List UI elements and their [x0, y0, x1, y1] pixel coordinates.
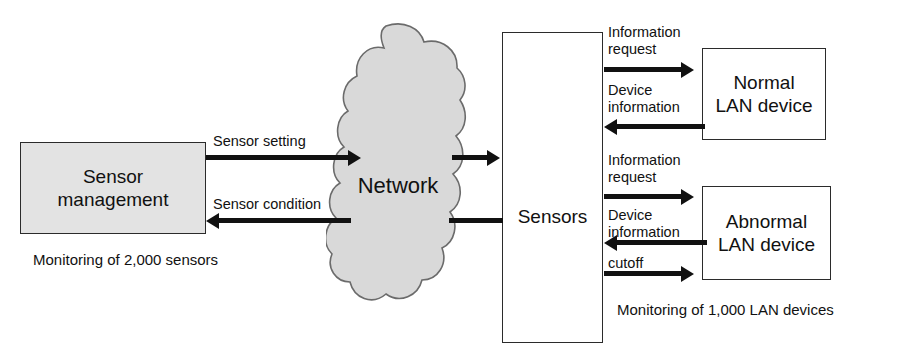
sensor-management-label: Sensor management [58, 165, 169, 211]
abnormal-information-request-line1: Information [608, 152, 681, 168]
sensor-management-label-line2: management [58, 189, 169, 210]
abnormal-lan-device-label: Abnormal LAN device [718, 210, 815, 256]
arrow-normal-device-information-head [604, 119, 617, 135]
arrow-normal-information-request [604, 67, 684, 72]
sensors-label: Sensors [503, 205, 602, 228]
sensors-box: Sensors [502, 32, 603, 343]
abnormal-information-request-line2: request [608, 169, 656, 185]
arrow-sensor-setting [206, 155, 351, 160]
sensor-management-box: Sensor management [20, 142, 206, 234]
cutoff-label: cutoff [608, 255, 643, 272]
abnormal-device-information-line2: information [608, 224, 680, 240]
normal-information-request-line2: request [608, 41, 656, 57]
normal-device-information-label: Device information [608, 82, 680, 116]
abnormal-lan-device-label-line1: Abnormal [726, 211, 807, 232]
arrow-network-to-sensors [452, 155, 488, 160]
sensor-setting-label: Sensor setting [213, 133, 306, 150]
normal-device-information-line2: information [608, 99, 680, 115]
arrow-normal-device-information [617, 124, 705, 129]
abnormal-information-request-label: Information request [608, 152, 681, 186]
arrow-sensor-condition [219, 218, 351, 223]
arrow-cutoff [604, 271, 684, 276]
arrow-abnormal-information-request-head [681, 189, 694, 205]
arrow-abnormal-device-information [617, 240, 707, 245]
arrow-sensor-condition-head [206, 213, 219, 229]
normal-information-request-line1: Information [608, 24, 681, 40]
abnormal-lan-device-label-line2: LAN device [718, 234, 815, 255]
normal-device-information-line1: Device [608, 82, 652, 98]
arrow-sensor-setting-head [348, 150, 361, 166]
normal-lan-device-label: Normal LAN device [715, 71, 812, 117]
arrow-abnormal-information-request [604, 194, 684, 199]
normal-lan-device-label-line1: Normal [733, 72, 794, 93]
figure-caption-remnant [255, 353, 645, 361]
sensor-condition-label: Sensor condition [213, 196, 321, 213]
sensor-management-label-line1: Sensor [83, 166, 143, 187]
normal-lan-device-box: Normal LAN device [702, 48, 826, 140]
arrow-abnormal-device-information-head [604, 235, 617, 251]
normal-information-request-label: Information request [608, 24, 681, 58]
abnormal-lan-device-box: Abnormal LAN device [702, 186, 831, 280]
arrow-cutoff-head [681, 266, 694, 282]
lan-monitoring-caption: Monitoring of 1,000 LAN devices [617, 301, 834, 318]
arrow-sensors-to-network [449, 218, 503, 223]
arrow-network-to-sensors-head [487, 150, 500, 166]
abnormal-device-information-line1: Device [608, 207, 652, 223]
arrow-normal-information-request-head [681, 62, 694, 78]
diagram-canvas: Network Sensor management Sensors Normal… [0, 0, 898, 363]
abnormal-device-information-label: Device information [608, 207, 680, 241]
network-label: Network [333, 173, 463, 199]
sensors-monitoring-caption: Monitoring of 2,000 sensors [33, 251, 218, 268]
normal-lan-device-label-line2: LAN device [715, 95, 812, 116]
